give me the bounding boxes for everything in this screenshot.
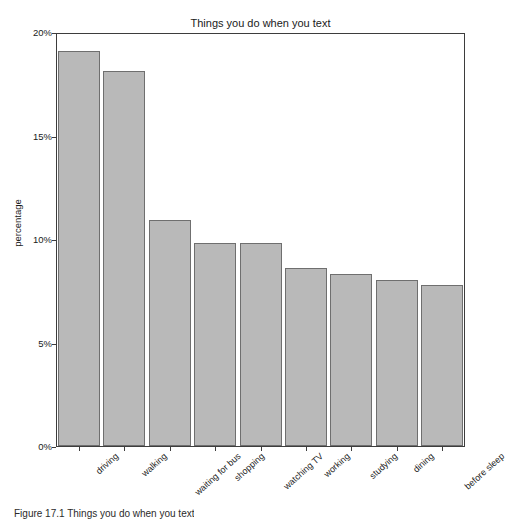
y-axis-tick-label: 20% [0, 28, 52, 38]
y-axis-tick-label: 15% [0, 132, 52, 142]
x-axis: drivingwalkingwaiting for busshoppingwat… [56, 447, 465, 507]
x-axis-tick-label: dining [411, 451, 436, 475]
x-axis-tick-mark [397, 447, 398, 451]
chart-title: Things you do when you text [56, 17, 465, 30]
bar-series [57, 34, 464, 446]
bar [421, 285, 463, 446]
x-axis-tick-label: watching TV [281, 451, 324, 491]
y-axis-label: percentage [13, 183, 23, 263]
figure-caption: Figure 17.1 Things you do when you text [14, 508, 194, 519]
x-axis-tick-mark [170, 447, 171, 451]
x-axis-tick-mark [124, 447, 125, 451]
x-axis-tick-mark [442, 447, 443, 451]
x-axis-tick-mark [306, 447, 307, 451]
x-axis-tick-mark [215, 447, 216, 451]
x-axis-tick-mark [351, 447, 352, 451]
bar [285, 268, 327, 446]
bar [240, 243, 282, 446]
x-axis-tick-label: working [322, 451, 352, 479]
bar [376, 280, 418, 446]
x-axis-tick-label: driving [94, 451, 120, 476]
x-axis-tick-label: walking [140, 451, 169, 479]
x-axis-tick-label: studying [368, 451, 400, 481]
y-axis-tick-label: 10% [0, 235, 52, 245]
y-axis-tick-label: 0% [0, 442, 52, 452]
bar [149, 220, 191, 446]
x-axis-tick-label: before sleep [463, 451, 507, 492]
x-axis-tick-mark [79, 447, 80, 451]
x-axis-tick-mark [261, 447, 262, 451]
bar [58, 51, 100, 446]
bar [194, 243, 236, 446]
bar [103, 71, 145, 446]
bar [330, 274, 372, 446]
y-axis-tick-label: 5% [0, 339, 52, 349]
plot-area [56, 33, 465, 447]
